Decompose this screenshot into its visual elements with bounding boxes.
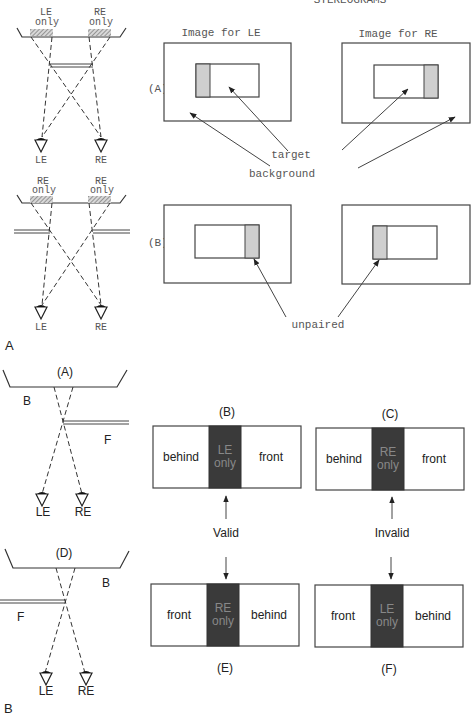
depth-label-right: front xyxy=(259,450,284,464)
right-eye-label: RE xyxy=(78,684,95,698)
sightline xyxy=(31,203,101,305)
strip-label: (C) xyxy=(382,407,399,421)
strip-c: (C)behindfrontREonly xyxy=(316,407,464,490)
monocular-label: RE xyxy=(215,601,232,615)
verdict-valid: Valid xyxy=(213,526,239,540)
stereo-image-re-a xyxy=(342,43,470,123)
sightline xyxy=(42,37,110,137)
depth-label-right: behind xyxy=(415,609,451,623)
monocular-label: only xyxy=(214,456,236,470)
left-eye-icon xyxy=(40,671,52,685)
left-eye-icon xyxy=(35,138,47,152)
right-eye-icon xyxy=(80,671,92,685)
monocular-label: only xyxy=(377,458,399,472)
monocular-label: only xyxy=(212,614,234,628)
unpaired-region xyxy=(196,64,210,97)
right-eye-icon xyxy=(95,138,107,152)
image-re-title: Image for RE xyxy=(358,28,438,40)
le-only-region xyxy=(30,29,53,36)
monocular-label: LE xyxy=(380,602,395,616)
unpaired-region xyxy=(424,65,438,98)
sightline xyxy=(42,37,52,137)
region-label-right-line2: only xyxy=(89,17,113,28)
region-label-left-line2: only xyxy=(35,17,59,28)
right-eye-label: RE xyxy=(95,155,107,166)
re-only-region xyxy=(88,29,111,36)
strip-group: (B)behindfrontLEonly(C)behindfrontREonly… xyxy=(151,405,464,676)
region-label-left-line2: only xyxy=(32,185,56,196)
stereo-image-le-a xyxy=(164,43,291,121)
figure: STEREOGRAMS LE only RE only LE RE RE onl… xyxy=(0,0,474,716)
monocular-label: RE xyxy=(380,445,397,459)
stereo-image-re-b xyxy=(342,205,470,284)
occlusion-diagram-d: (D) B F LE RE xyxy=(0,546,129,698)
sightline xyxy=(42,203,52,305)
left-eye-label: LE xyxy=(35,322,47,333)
panel-label-b: B xyxy=(4,701,13,716)
strip-e: (E)frontbehindREonly xyxy=(151,584,299,675)
strip-label: (F) xyxy=(381,662,396,676)
region-label-right-line2: only xyxy=(90,185,114,196)
diagram-b-top: RE only RE only LE RE xyxy=(14,176,130,333)
image-le-title: Image for LE xyxy=(181,27,261,39)
occlusion-diagram-a: (A) B F LE RE xyxy=(3,365,129,519)
strip-b: (B)behindfrontLEonly xyxy=(153,405,301,488)
strip-f: (F)frontbehindLEonly xyxy=(315,585,463,676)
le-only-region xyxy=(88,196,111,203)
surface-label: B xyxy=(23,394,31,408)
surface-label: B xyxy=(102,576,110,590)
right-eye-icon xyxy=(76,492,88,506)
diagram-a-top: LE only RE only LE RE xyxy=(17,7,126,166)
occluder-label: F xyxy=(17,610,24,624)
header-title: STEREOGRAMS xyxy=(314,0,387,6)
monocular-label: LE xyxy=(218,443,233,457)
depth-label-left: behind xyxy=(326,452,362,466)
unpaired-region xyxy=(245,225,259,258)
diagram-label: (A) xyxy=(57,365,73,379)
background-label: background xyxy=(249,168,315,180)
left-eye-icon xyxy=(35,305,47,319)
re-only-region xyxy=(30,196,53,203)
depth-label-left: behind xyxy=(163,450,199,464)
background-arrow-right xyxy=(358,117,455,168)
depth-label-left: front xyxy=(331,609,356,623)
sightline xyxy=(31,37,101,137)
left-eye-label: LE xyxy=(39,684,54,698)
strip-label: (E) xyxy=(217,661,233,675)
diagram-label: (D) xyxy=(56,546,73,560)
unpaired-region xyxy=(373,226,387,259)
occluder-label: F xyxy=(104,433,111,447)
verdict-invalid: Invalid xyxy=(375,526,410,540)
right-eye-label: RE xyxy=(95,322,107,333)
strip-label: (B) xyxy=(219,405,235,419)
right-eye-label: RE xyxy=(75,505,92,519)
monocular-label: only xyxy=(376,615,398,629)
unpaired-label: unpaired xyxy=(292,319,345,331)
left-eye-label: LE xyxy=(35,155,47,166)
sightline xyxy=(42,203,110,305)
depth-label-right: behind xyxy=(251,608,287,622)
right-eye-icon xyxy=(95,305,107,319)
depth-label-right: front xyxy=(422,452,447,466)
target-label: target xyxy=(271,149,311,161)
sightline xyxy=(42,387,73,494)
panel-label-a: A xyxy=(5,338,14,353)
stereo-image-le-b xyxy=(164,205,291,283)
depth-label-left: front xyxy=(167,608,192,622)
left-eye-label: LE xyxy=(36,505,51,519)
left-eye-icon xyxy=(36,492,48,506)
